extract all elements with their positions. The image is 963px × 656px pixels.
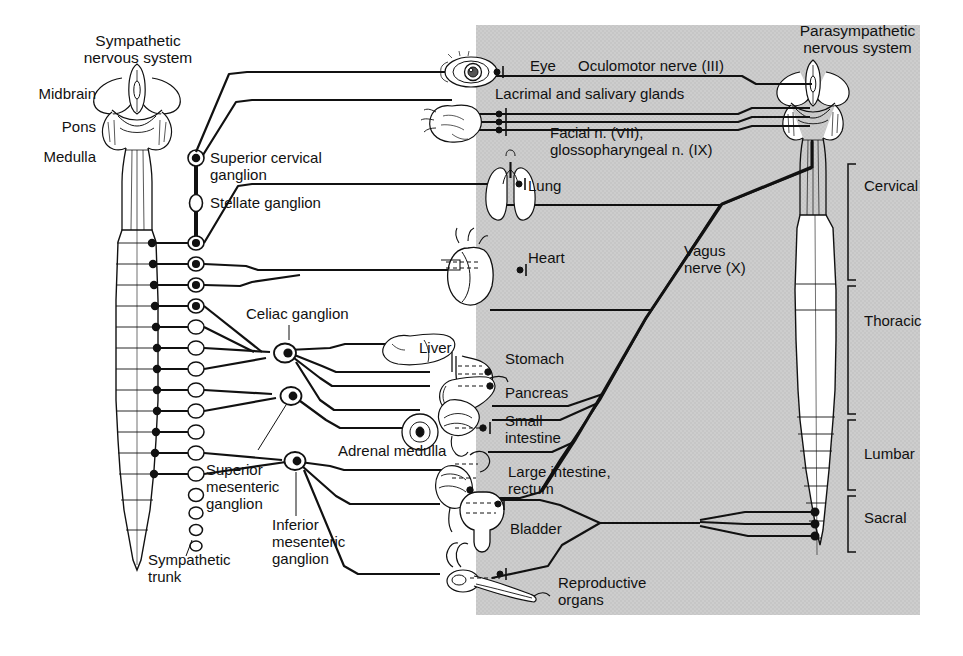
label-pancreas: Pancreas <box>505 385 568 402</box>
label-bladder: Bladder <box>510 521 562 538</box>
label-heart: Heart <box>528 250 565 267</box>
label-cervical: Cervical <box>864 178 918 195</box>
label-stellate-ganglion: Stellate ganglion <box>210 195 321 212</box>
label-superior-mesenteric-ganglion: Superior mesenteric ganglion <box>206 462 279 512</box>
sympathetic-trunk-chain <box>188 150 204 551</box>
autonomic-nervous-system-diagram: Sympathetic nervous system Parasympathet… <box>0 0 963 656</box>
superior-cervical-ganglion-node <box>188 150 204 166</box>
label-inferior-mesenteric-ganglion: Inferior mesenteric ganglion <box>272 517 345 567</box>
sympathetic-title: Sympathetic nervous system <box>58 32 218 67</box>
label-reproductive-organs: Reproductive organs <box>558 575 646 609</box>
label-oculomotor-nerve: Oculomotor nerve (III) <box>578 58 724 75</box>
label-thoracic: Thoracic <box>864 313 922 330</box>
label-superior-cervical-ganglion: Superior cervical ganglion <box>210 150 322 184</box>
celiac-ganglion-node <box>274 344 296 363</box>
salivary-gland-icon <box>421 105 481 142</box>
label-facial-glossopharyngeal-nerve: Facial n. (VII), glossopharyngeal n. (IX… <box>550 125 713 159</box>
label-celiac-ganglion: Celiac ganglion <box>246 306 349 323</box>
label-eye: Eye <box>530 58 556 75</box>
label-lumbar: Lumbar <box>864 446 915 463</box>
inferior-mesenteric-ganglion-node <box>285 452 306 470</box>
superior-mesenteric-ganglion-node <box>281 387 302 405</box>
sympathetic-brainstem-and-cord <box>94 64 181 570</box>
label-vagus-nerve: Vagus nerve (X) <box>684 243 746 277</box>
label-large-intestine-rectum: Large intestine, rectum <box>508 464 611 498</box>
label-liver: Liver <box>419 340 452 357</box>
label-sympathetic-trunk: Sympathetic trunk <box>148 552 231 586</box>
label-medulla: Medulla <box>0 149 96 166</box>
label-adrenal-medulla: Adrenal medulla <box>338 443 446 460</box>
label-lacrimal-salivary-glands: Lacrimal and salivary glands <box>495 86 684 103</box>
label-midbrain: Midbrain <box>0 86 96 103</box>
parasympathetic-title: Parasympathetic nervous system <box>770 22 945 57</box>
label-sacral: Sacral <box>864 510 907 527</box>
stellate-ganglion-node <box>190 195 203 212</box>
paravertebral-chain <box>188 236 204 551</box>
label-pons: Pons <box>0 119 96 136</box>
diagram-canvas <box>0 0 963 656</box>
label-small-intestine: Small intestine <box>505 413 561 447</box>
label-stomach: Stomach <box>505 351 564 368</box>
label-lung: Lung <box>528 178 561 195</box>
